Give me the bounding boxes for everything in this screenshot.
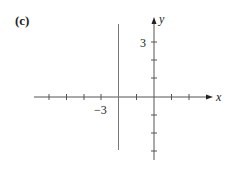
x-tick-label-neg3: −3 bbox=[94, 104, 107, 116]
panel-label: (c) bbox=[15, 14, 29, 27]
x-axis-label: x bbox=[216, 91, 221, 103]
y-tick-label-3: 3 bbox=[140, 37, 146, 49]
y-axis-arrow-icon bbox=[152, 17, 157, 24]
chart-canvas bbox=[0, 0, 231, 174]
y-axis-label: y bbox=[159, 13, 164, 25]
x-axis-arrow-icon bbox=[206, 95, 213, 100]
